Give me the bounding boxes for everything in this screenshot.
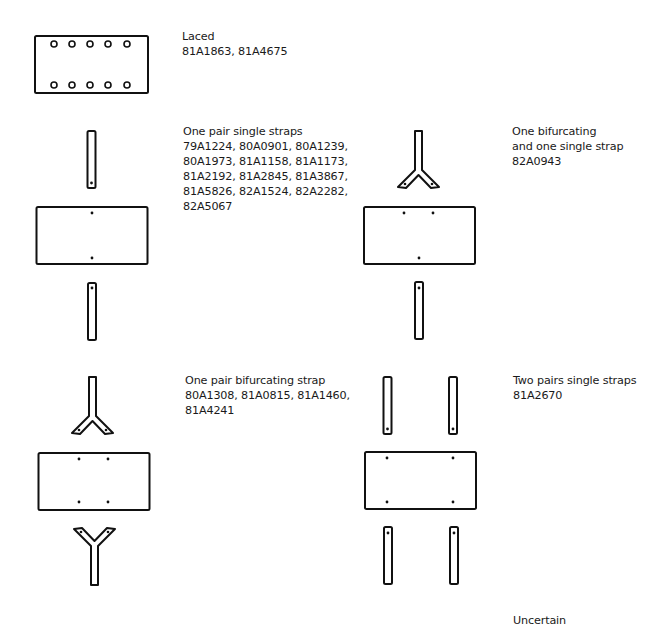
caption-title: Two pairs single straps [513,373,636,388]
single-strap-bottom-right [450,527,458,584]
panel [39,453,150,510]
caption-laced: Laced 81A1863, 81A4675 [182,29,287,59]
caption-line: 82A0943 [512,154,623,169]
laced-figure [35,36,148,93]
caption-uncertain: Uncertain [513,613,566,628]
caption-line: and one single strap [512,139,623,154]
bifurcating-strap-top [72,377,113,434]
panel [365,452,476,509]
one-pair-single-figure [37,131,148,340]
one-pair-bifurcating-figure [39,377,150,585]
caption-line: 79A1224, 80A0901, 80A1239, [183,139,348,154]
caption-line: 81A4241 [185,403,350,418]
caption-one-pair-bifurcating: One pair bifurcating strap 80A1308, 81A0… [185,373,350,418]
two-pairs-single-figure [365,377,476,584]
caption-one-bifurcating-one-single: One bifurcating and one single strap 82A… [512,124,623,169]
single-strap-top-right [449,377,457,434]
panel [37,207,148,264]
caption-two-pairs-single: Two pairs single straps 81A2670 [513,373,636,403]
caption-line: 81A1863, 81A4675 [182,44,287,59]
single-strap-bottom [88,283,96,340]
caption-line: 80A1308, 81A0815, 81A1460, [185,388,350,403]
caption-line: 82A5067 [183,199,348,214]
caption-line: 81A2670 [513,388,636,403]
caption-title: Laced [182,29,287,44]
caption-line: 81A2192, 81A2845, 81A3867, [183,169,348,184]
caption-title: One pair single straps [183,124,348,139]
caption-line: 81A5826, 82A1524, 82A2282, [183,184,348,199]
caption-title: Uncertain [513,613,566,628]
caption-title: One pair bifurcating strap [185,373,350,388]
one-bifurcating-one-single-figure [364,131,475,339]
bifurcating-strap-bottom [74,528,115,585]
single-strap-bottom-left [384,527,392,584]
single-strap-top-left [384,377,392,434]
strap-diagram [0,0,666,632]
single-strap-top [88,131,96,188]
caption-title: One bifurcating [512,124,623,139]
panel [364,207,475,264]
bifurcating-strap-top [398,131,439,188]
caption-one-pair-single: One pair single straps 79A1224, 80A0901,… [183,124,348,214]
single-strap-bottom [415,282,423,339]
caption-line: 80A1973, 81A1158, 81A1173, [183,154,348,169]
